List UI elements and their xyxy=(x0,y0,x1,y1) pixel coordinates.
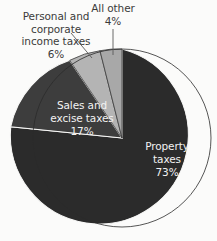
slice-label-all-other: All other 4% xyxy=(76,2,150,27)
slice-label-property-taxes: Property taxes 73% xyxy=(128,140,206,179)
slice-label-sales-excise-taxes: Sales and excise taxes 17% xyxy=(36,99,128,138)
pie-chart-figure: Personal and corporate income taxes 6% A… xyxy=(0,0,217,241)
